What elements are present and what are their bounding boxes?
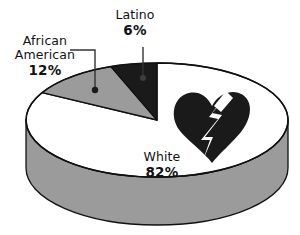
slice-label-white-percent: 82%: [120, 165, 204, 180]
callout-dot-latino: [140, 75, 146, 81]
slice-label-african-american-name-line2: American: [2, 48, 88, 62]
slice-label-white-name: White: [120, 150, 204, 164]
callout-dot-african-american: [92, 87, 98, 93]
slice-label-latino: Latino 6%: [96, 8, 174, 38]
slice-label-latino-percent: 6%: [96, 23, 174, 38]
slice-label-latino-name: Latino: [96, 8, 174, 22]
slice-label-african-american-percent: 12%: [2, 63, 88, 78]
pie-chart-figure: Latino 6% African American 12% White 82%: [0, 0, 300, 235]
slice-label-african-american-name-line1: African: [2, 34, 88, 48]
slice-label-white: White 82%: [120, 150, 204, 180]
slice-label-african-american: African American 12%: [2, 34, 88, 78]
